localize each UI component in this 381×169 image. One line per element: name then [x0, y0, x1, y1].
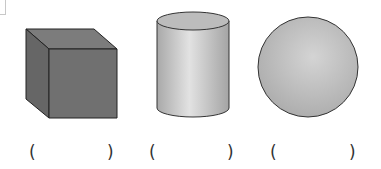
answer-1-open-paren: ( — [29, 142, 36, 162]
answer-2-open-paren: ( — [149, 142, 156, 162]
sphere-shape — [258, 17, 358, 117]
answer-2-close-paren: ) — [227, 142, 234, 162]
answer-3-close-paren: ) — [349, 142, 356, 162]
answer-3-open-paren: ( — [270, 142, 277, 162]
cylinder-shape — [157, 12, 229, 117]
answer-2-blank[interactable] — [160, 142, 226, 162]
cube-shape — [26, 29, 117, 118]
answer-1-blank[interactable] — [40, 142, 106, 162]
answer-1-close-paren: ) — [107, 142, 114, 162]
answer-3-blank[interactable] — [281, 142, 347, 162]
